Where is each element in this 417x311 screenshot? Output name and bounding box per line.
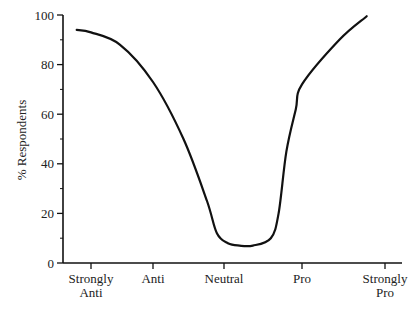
x-tick-label: Anti (79, 285, 103, 300)
y-axis-title: % Respondents (14, 100, 29, 181)
y-tick-label: 100 (35, 8, 55, 23)
y-tick-label: 20 (41, 206, 54, 221)
y-tick-label: 40 (41, 156, 54, 171)
x-tick-label: Pro (376, 285, 394, 300)
data-line (77, 16, 367, 246)
chart: 020406080100 StronglyAntiAntiNeutralProS… (0, 0, 417, 311)
x-tick-label: Strongly (69, 271, 114, 286)
y-axis: 020406080100 (35, 8, 64, 271)
x-tick-label: Anti (141, 271, 165, 286)
x-tick-label: Strongly (363, 271, 408, 286)
y-tick-label: 0 (48, 256, 55, 271)
x-tick-label: Pro (293, 271, 311, 286)
y-tick-label: 60 (41, 107, 54, 122)
x-tick-label: Neutral (205, 271, 244, 286)
x-axis: StronglyAntiAntiNeutralProStronglyPro (63, 263, 408, 300)
y-tick-label: 80 (41, 57, 54, 72)
